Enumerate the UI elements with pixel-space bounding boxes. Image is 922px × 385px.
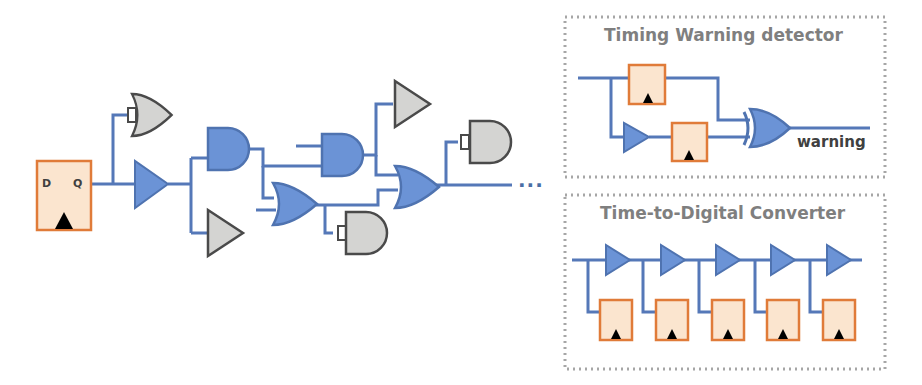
- tdc-circuit: [572, 245, 862, 340]
- warning-output-label: warning: [797, 133, 866, 151]
- panel-title-tdc: Time-to-Digital Converter: [600, 203, 845, 223]
- and-gate-2: [322, 134, 363, 176]
- main-flip-flop: [37, 161, 91, 230]
- buffer-gate: [135, 161, 168, 208]
- or-gate-1: [273, 183, 317, 225]
- continuation-ellipsis: ...: [518, 168, 544, 192]
- or-gate-2: [395, 166, 439, 208]
- flipflop-q-label: Q: [73, 177, 82, 190]
- panel-title-timing-warning: Timing Warning detector: [604, 25, 843, 45]
- inactive-or-gate: [128, 94, 172, 136]
- inactive-buffer-gate: [208, 210, 243, 256]
- inactive-and-gate-right: [461, 121, 511, 163]
- circuit-diagram: [0, 0, 922, 385]
- and-gate-1: [208, 128, 249, 170]
- inactive-and-gate-lower: [338, 212, 387, 254]
- inactive-buffer-gate-top: [395, 81, 430, 127]
- flipflop-d-label: D: [42, 177, 51, 190]
